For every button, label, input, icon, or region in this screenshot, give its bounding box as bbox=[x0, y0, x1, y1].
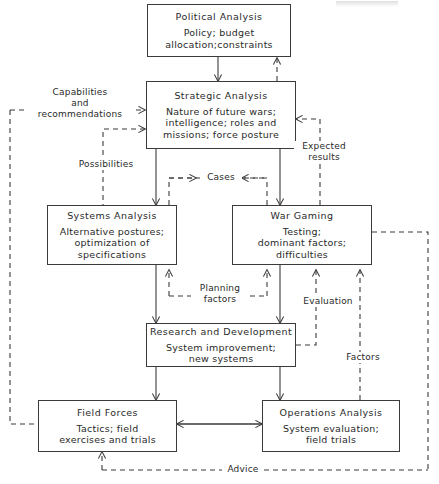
node-description: Tactics; field exercises and trials bbox=[59, 423, 156, 446]
node-description: System evaluation; field trials bbox=[283, 423, 379, 446]
edge-label-factors: Factors bbox=[340, 352, 386, 363]
node-political-analysis[interactable]: Political Analysis Policy; budget alloca… bbox=[147, 4, 291, 57]
node-title: Field Forces bbox=[77, 407, 138, 418]
edge-label-possibilities: Possibilities bbox=[68, 159, 144, 170]
diagram-canvas: Political Analysis Policy; budget alloca… bbox=[0, 0, 439, 484]
node-title: Strategic Analysis bbox=[174, 90, 267, 101]
node-title: Research and Development bbox=[150, 326, 292, 337]
node-description: Testing; dominant factors; difficulties bbox=[258, 226, 347, 261]
node-systems-analysis[interactable]: Systems Analysis Alternative postures; o… bbox=[47, 205, 177, 265]
edge-label-evaluation: Evaluation bbox=[298, 296, 358, 307]
node-field-forces[interactable]: Field Forces Tactics; field exercises an… bbox=[38, 400, 177, 452]
node-title: War Gaming bbox=[270, 210, 333, 221]
node-description: Policy; budget allocation;constraints bbox=[165, 27, 273, 50]
node-description: Alternative postures; optimization of sp… bbox=[60, 226, 165, 261]
node-war-gaming[interactable]: War Gaming Testing; dominant factors; di… bbox=[232, 205, 372, 265]
edge-left-feedback-bus bbox=[10, 110, 47, 424]
edge-label-advice: Advice bbox=[222, 464, 264, 475]
edge-cases-left bbox=[169, 178, 196, 205]
edge-label-expected-results: Expected results bbox=[294, 141, 354, 163]
node-title: Systems Analysis bbox=[67, 210, 157, 221]
edge-label-capabilities-and-recommendations: Capabilities and recommendations bbox=[24, 87, 136, 120]
node-title: Operations Analysis bbox=[280, 407, 383, 418]
node-description: System improvement; new systems bbox=[166, 342, 276, 365]
node-title: Political Analysis bbox=[176, 11, 263, 22]
edge-label-cases: Cases bbox=[200, 172, 242, 183]
node-strategic-analysis[interactable]: Strategic Analysis Nature of future wars… bbox=[146, 81, 296, 149]
edge-label-planning-factors: Planning factors bbox=[191, 283, 249, 305]
node-description: Nature of future wars; intelligence; rol… bbox=[163, 106, 279, 141]
edge-cases-right bbox=[242, 178, 267, 205]
scan-artifact bbox=[336, 1, 398, 9]
node-operations-analysis[interactable]: Operations Analysis System evaluation; f… bbox=[262, 400, 400, 452]
edge-evaluation bbox=[296, 270, 316, 345]
node-research-and-development[interactable]: Research and Development System improvem… bbox=[146, 323, 296, 367]
